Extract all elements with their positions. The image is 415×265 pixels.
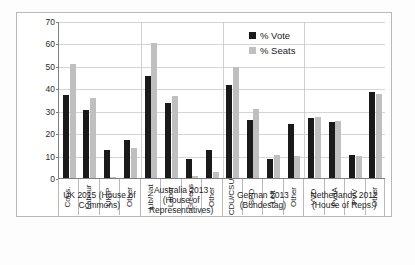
group-separator [304, 22, 305, 178]
y-axis-tick-label: 60 [46, 40, 55, 49]
group-label-cell: German 2013 (Bundestag) [222, 183, 304, 217]
bar-seats [131, 148, 137, 178]
legend-item-seats: % Seats [249, 46, 295, 56]
bar-vote [329, 122, 335, 178]
bar-vote [369, 92, 375, 178]
chart-frame: 010203040506070 Cons.LabourUKIPOtherLib/… [16, 12, 392, 217]
bar-seats [294, 156, 300, 178]
bar-seats [110, 177, 116, 178]
vote-swatch-icon [249, 32, 256, 39]
y-axis-tick-label: 40 [46, 85, 55, 94]
group-label: German 2013 (Bundestag) [223, 190, 304, 210]
bar-seats [376, 94, 382, 178]
bar-seats [213, 172, 219, 178]
y-axis-tick-label: 20 [46, 130, 55, 139]
bar-vote [349, 155, 355, 178]
y-axis-tick-label: 50 [46, 63, 55, 72]
group-label: Netherlands 2012 (House of Reps.) [304, 190, 384, 210]
vote-vs-seats-bar-chart: 010203040506070 Cons.LabourUKIPOtherLib/… [0, 0, 415, 265]
bar-vote [288, 124, 294, 178]
chart-legend: % Vote % Seats [249, 31, 295, 60]
plot-area: 010203040506070 [58, 22, 385, 179]
bar-seats [356, 156, 362, 178]
bar-vote [63, 95, 69, 178]
bar-seats [90, 98, 96, 178]
bar-vote [83, 110, 89, 178]
bar-vote [247, 120, 253, 178]
bar-vote [124, 140, 130, 178]
seats-swatch-icon [249, 47, 256, 54]
bar-seats [315, 117, 321, 178]
bar-vote [145, 76, 151, 178]
bar-vote [206, 150, 212, 178]
y-axis-tick-label: 0 [50, 175, 55, 184]
bar-vote [226, 85, 232, 178]
bar-seats [335, 121, 341, 178]
bar-seats [172, 96, 178, 178]
bar-seats [274, 155, 280, 178]
legend-item-vote: % Vote [249, 31, 295, 41]
y-axis-tick-label: 70 [46, 18, 55, 27]
bar-vote [267, 159, 273, 178]
group-label: Australia 2013 (House of Representatives… [141, 185, 222, 215]
bar-vote [104, 150, 110, 178]
group-label-cell: Netherlands 2012 (House of Reps.) [303, 183, 385, 217]
group-label: UK 2015 (House of Commons) [59, 190, 140, 210]
bar-seats [253, 109, 259, 178]
bar-seats [192, 176, 198, 178]
group-label-cell: UK 2015 (House of Commons) [58, 183, 140, 217]
y-axis-tick-label: 30 [46, 107, 55, 116]
legend-label-vote: % Vote [260, 31, 290, 41]
bar-seats [151, 43, 157, 178]
bar-vote [186, 159, 192, 179]
legend-label-seats: % Seats [260, 46, 295, 56]
group-separator [223, 22, 224, 178]
group-label-cell: Australia 2013 (House of Representatives… [140, 183, 222, 217]
group-separator [141, 22, 142, 178]
bar-seats [233, 67, 239, 178]
bar-seats [70, 64, 76, 178]
y-axis-tick-label: 10 [46, 152, 55, 161]
bar-vote [308, 118, 314, 178]
bar-vote [165, 103, 171, 178]
